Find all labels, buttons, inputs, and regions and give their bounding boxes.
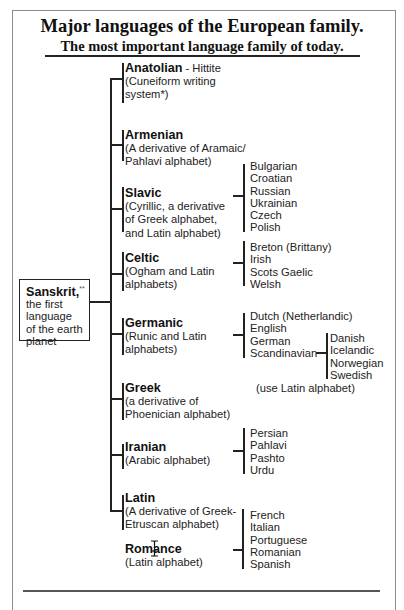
branch-desc: Pahlavi alphabet) <box>125 155 246 168</box>
germanic-note: (use Latin alphabet) <box>256 382 355 394</box>
branch-bracket <box>122 495 124 530</box>
trunk-line <box>110 78 112 511</box>
child-bracket <box>243 164 245 232</box>
branch-name: Anatolian <box>125 61 182 75</box>
branch-desc: (Cyrillic, a derivative <box>125 200 225 213</box>
footnote-rule <box>23 590 380 592</box>
language-item: Dutch (Netherlandic) <box>250 310 353 322</box>
branch-bracket <box>122 187 124 232</box>
language-item: Urdu <box>250 464 288 476</box>
root-desc-line: of the earth <box>26 323 89 335</box>
branch-name: Slavic <box>125 186 161 200</box>
language-item: Bulgarian <box>250 160 297 172</box>
language-item: Pashto <box>250 452 288 464</box>
child-bracket <box>243 241 245 286</box>
language-item: Russian <box>250 185 297 197</box>
language-item: Italian <box>250 521 307 533</box>
slavic-languages-list: Bulgarian Croatian Russian Ukrainian Cze… <box>250 160 297 234</box>
branch-bracket <box>122 318 124 355</box>
language-item: Welsh <box>250 278 331 290</box>
branch-name: Celtic <box>125 251 159 265</box>
language-item: Norwegian <box>330 357 383 369</box>
branch-desc: Phoenician alphabet) <box>125 408 230 421</box>
language-item: Breton (Brittany) <box>250 241 331 253</box>
child-connector <box>233 334 243 336</box>
branch-suffix: - Hittite <box>182 62 221 74</box>
branch-bracket <box>122 63 124 103</box>
language-item: Spanish <box>250 558 307 570</box>
root-footnote-marker: ** <box>79 285 84 292</box>
branch-desc: (a derivative of <box>125 395 230 408</box>
language-item: French <box>250 509 307 521</box>
branch-connector <box>110 510 122 512</box>
branch-desc: alphabets) <box>125 343 206 356</box>
branch-name: Germanic <box>125 316 183 330</box>
branch-connector <box>110 78 122 80</box>
branch-slavic: Slavic (Cyrillic, a derivative of Greek … <box>125 187 225 240</box>
page-subtitle: The most important language family of to… <box>0 38 404 55</box>
branch-name: Iranian <box>125 440 166 454</box>
language-item: Czech <box>250 209 297 221</box>
branch-desc: (Ogham and Latin <box>125 265 215 278</box>
branch-name: Latin <box>125 491 155 505</box>
branch-bracket <box>122 444 124 469</box>
branch-name: Armenian <box>125 128 183 142</box>
language-item: Icelandic <box>330 344 383 356</box>
language-item: Portuguese <box>250 534 307 546</box>
root-desc-line: language <box>26 310 89 322</box>
text-ibeam-cursor-icon <box>150 540 159 557</box>
footnote-text-cut-off <box>23 593 380 598</box>
branch-desc: (A derivative of Aramaic/ <box>125 142 246 155</box>
root-connector <box>90 301 110 303</box>
branch-desc: system*) <box>125 88 221 101</box>
iranian-languages-list: Persian Pahlavi Pashto Urdu <box>250 427 288 476</box>
language-item: Swedish <box>330 369 383 381</box>
scandinavian-languages-list: Danish Icelandic Norwegian Swedish <box>330 332 383 381</box>
branch-bracket <box>122 383 124 420</box>
root-node-sanskrit: Sanskrit,** the first language of the ea… <box>19 279 90 341</box>
branch-desc: (A derivative of Greek- <box>125 505 236 518</box>
branch-bracket <box>122 252 124 291</box>
celtic-languages-list: Breton (Brittany) Irish Scots Gaelic Wel… <box>250 241 331 290</box>
language-item: Scots Gaelic <box>250 266 331 278</box>
sub-child-connector <box>316 352 326 354</box>
branch-desc: Etruscan alphabet) <box>125 518 236 531</box>
branch-bracket <box>122 130 124 161</box>
language-item: Croatian <box>250 172 297 184</box>
branch-desc: (Latin alphabet) <box>125 556 203 569</box>
branch-latin: Latin (A derivative of Greek- Etruscan a… <box>125 492 236 532</box>
branch-connector <box>110 144 122 146</box>
language-item: Polish <box>250 221 297 233</box>
branch-desc: (Cuneiform writing <box>125 75 221 88</box>
branch-desc: and Latin alphabet) <box>125 227 225 240</box>
language-item: Ukrainian <box>250 197 297 209</box>
root-name: Sanskrit, <box>26 285 79 299</box>
branch-celtic: Celtic (Ogham and Latin alphabets) <box>125 252 215 292</box>
title-rule <box>45 55 360 57</box>
page-title: Major languages of the European family. <box>0 16 404 37</box>
child-bracket <box>242 509 244 569</box>
child-connector <box>233 450 243 452</box>
branch-anatolian: Anatolian - Hittite (Cuneiform writing s… <box>125 62 221 102</box>
branch-greek: Greek (a derivative of Phoenician alphab… <box>125 382 230 422</box>
child-bracket <box>243 428 245 474</box>
branch-connector <box>110 398 122 400</box>
branch-connector <box>110 208 122 210</box>
branch-desc: of Greek alphabet, <box>125 213 225 226</box>
root-desc-line: the first <box>26 298 89 310</box>
branch-iranian: Iranian (Arabic alphabet) <box>125 441 210 467</box>
branch-armenian: Armenian (A derivative of Aramaic/ Pahla… <box>125 129 246 169</box>
language-item: Irish <box>250 253 331 265</box>
root-desc-line: planet <box>26 335 89 347</box>
child-bracket <box>243 313 245 358</box>
branch-connector <box>110 333 122 335</box>
language-item: Romanian <box>250 546 307 558</box>
branch-germanic: Germanic (Runic and Latin alphabets) <box>125 317 206 357</box>
branch-desc: (Runic and Latin <box>125 330 206 343</box>
branch-connector <box>110 273 122 275</box>
sub-child-bracket <box>326 333 328 379</box>
branch-desc: (Arabic alphabet) <box>125 454 210 467</box>
branch-desc: alphabets) <box>125 278 215 291</box>
romance-languages-list: French Italian Portuguese Romanian Spani… <box>250 509 307 570</box>
branch-name: Greek <box>125 381 161 395</box>
